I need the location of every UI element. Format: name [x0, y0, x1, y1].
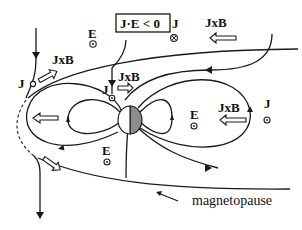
arrow-down-icon [36, 212, 44, 219]
force-arrow-downright-icon [41, 154, 63, 174]
nightside-inner-loop [140, 100, 172, 134]
arrow-up-icon [247, 106, 253, 112]
into-page-icon [171, 35, 178, 42]
jxb-label-right: JxB [218, 100, 240, 115]
j-label-left: J [18, 76, 25, 91]
arrow-down-icon [108, 80, 116, 87]
force-arrow-left-icon [210, 33, 236, 43]
force-arrow-upright-icon [37, 67, 59, 85]
caption-pointer-arrow-icon [156, 191, 162, 196]
arrow-up-icon [170, 114, 174, 120]
magnetopause-caption: magnetopause [192, 193, 272, 208]
e-label-center-bottom: E [102, 143, 111, 158]
force-arrow-right-icon [118, 83, 133, 93]
force-arrow-left-icon [220, 115, 246, 125]
e-label-top: E [88, 26, 97, 41]
earth-bottom-field-line [126, 128, 128, 178]
magnetopause-nose-dashed [17, 100, 34, 156]
magnetopause-bottom-line [38, 158, 290, 189]
force-arrow-left-icon [33, 113, 58, 123]
j-label-center: J [102, 82, 109, 97]
jxb-label-top-right: JxB [205, 15, 227, 30]
tail-field-line-top [125, 34, 272, 100]
j-label-top-right: J [172, 16, 179, 31]
dayside-inner-loop [68, 100, 120, 134]
arrow-left-icon [205, 66, 212, 74]
out-of-page-icon [30, 81, 35, 86]
jxb-label-left: JxB [52, 52, 74, 67]
solar-wind-field-line-bottom [34, 156, 40, 218]
caption-pointer-line [158, 193, 178, 201]
magnetosphere-diagram: J·E < 0 E J JxB J JxB J JxB E E JxB [0, 0, 302, 230]
jxb-label-center: JxB [118, 69, 140, 84]
arrow-up-icon [66, 115, 70, 122]
e-label-right: E [190, 107, 199, 122]
earth [118, 106, 142, 134]
j-label-right: J [264, 96, 271, 111]
arrow-down-icon [32, 52, 40, 59]
title-box-text: J·E < 0 [120, 16, 160, 31]
solar-wind-field-line-top [26, 28, 36, 98]
